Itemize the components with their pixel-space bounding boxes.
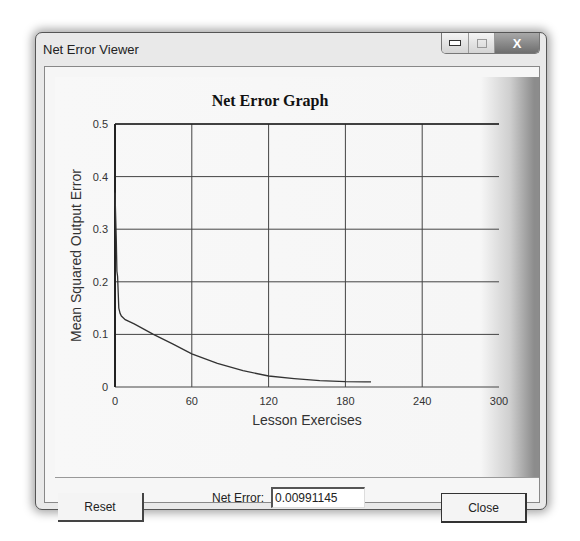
maximize-button[interactable] xyxy=(469,33,495,53)
title-bar[interactable]: Net Error Viewer X xyxy=(36,33,546,65)
x-tick-label: 240 xyxy=(413,395,431,407)
caption-buttons: X xyxy=(441,33,540,54)
net-error-viewer-window: Net Error Viewer X Net Error Graph 00.10… xyxy=(35,32,547,510)
net-error-chart: 00.10.20.30.40.5060120180240300Lesson Ex… xyxy=(55,77,539,477)
maximize-icon xyxy=(477,39,487,48)
y-tick-label: 0 xyxy=(102,381,108,393)
y-tick-label: 0.2 xyxy=(93,276,108,288)
x-tick-label: 300 xyxy=(490,395,508,407)
close-icon: X xyxy=(513,36,522,51)
net-error-field: 0.00991145 xyxy=(271,487,365,508)
y-tick-label: 0.5 xyxy=(93,118,108,130)
net-error-line xyxy=(115,192,371,381)
chart-panel: Net Error Graph 00.10.20.30.40.506012018… xyxy=(55,77,539,478)
x-tick-label: 60 xyxy=(186,395,198,407)
y-tick-label: 0.4 xyxy=(93,171,108,183)
x-tick-label: 0 xyxy=(112,395,118,407)
net-error-label: Net Error: xyxy=(212,491,264,505)
window-close-button[interactable]: X xyxy=(495,33,539,53)
reset-button[interactable]: Reset xyxy=(58,493,144,522)
x-tick-label: 180 xyxy=(336,395,354,407)
minimize-icon xyxy=(449,40,461,46)
y-tick-label: 0.1 xyxy=(93,328,108,340)
x-tick-label: 120 xyxy=(259,395,277,407)
window-title: Net Error Viewer xyxy=(43,42,139,57)
close-button[interactable]: Close xyxy=(441,493,527,523)
client-area: Net Error Graph 00.10.20.30.40.506012018… xyxy=(44,66,540,503)
y-tick-label: 0.3 xyxy=(93,223,108,235)
x-axis-label: Lesson Exercises xyxy=(252,412,362,428)
minimize-button[interactable] xyxy=(442,33,469,53)
y-axis-label: Mean Squared Output Error xyxy=(68,169,84,342)
